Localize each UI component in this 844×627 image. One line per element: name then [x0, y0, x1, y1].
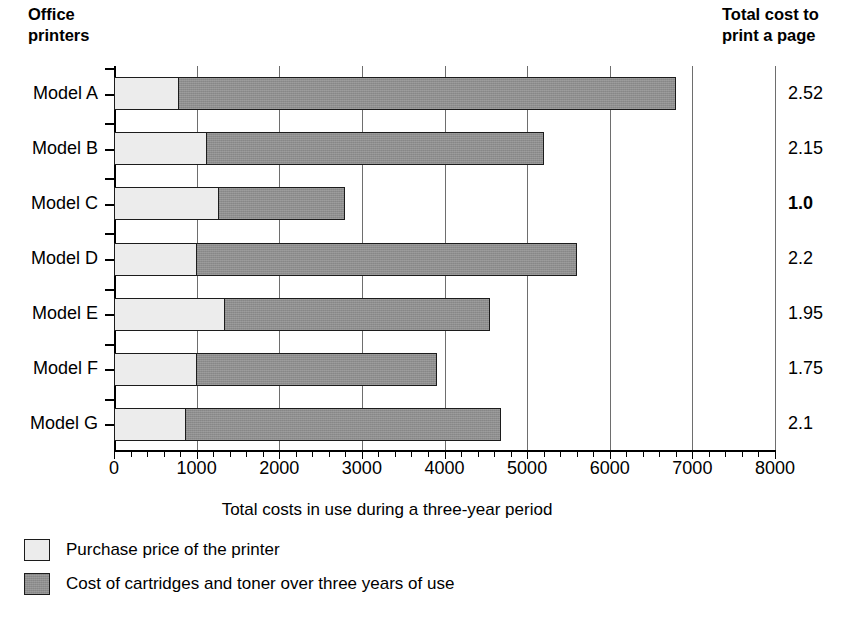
total-cost-column-title: Total cost to print a page: [722, 4, 844, 46]
bar-model-f[interactable]: [114, 353, 437, 386]
x-tick-minor: [577, 450, 578, 457]
y-tick-edge: [105, 233, 115, 235]
x-tick-minor: [345, 450, 346, 457]
office-printers-line2: printers: [28, 26, 89, 44]
x-tick-label-4000: 4000: [424, 458, 464, 478]
x-tick-minor: [312, 450, 313, 457]
bar-model-c[interactable]: [114, 187, 345, 220]
x-tick-minor: [725, 450, 726, 457]
total-cost-line1: Total cost to: [722, 4, 844, 25]
gridline-8000: [775, 66, 776, 450]
gridline-7000: [692, 66, 693, 450]
bar-segment-cartridge-cost: [206, 133, 543, 164]
total-cost-line2: print a page: [722, 25, 844, 46]
total-cost-value-model-f: 1.75: [788, 358, 823, 379]
x-tick-label-3000: 3000: [342, 458, 382, 478]
gridline-6000: [610, 66, 611, 450]
bar-segment-cartridge-cost: [196, 354, 436, 385]
y-tick-edge: [105, 344, 115, 346]
x-axis-title: Total costs in use during a three-year p…: [0, 500, 844, 520]
legend-swatch-light: [24, 539, 50, 561]
bar-segment-purchase-price: [115, 133, 206, 164]
y-tick-edge: [105, 68, 115, 70]
total-cost-value-model-g: 2.1: [788, 413, 813, 434]
office-printers-line1: Office: [28, 5, 75, 23]
chart-legend: Purchase price of the printerCost of car…: [24, 535, 454, 603]
category-label-model-g: Model G: [30, 413, 98, 434]
x-tick-minor: [296, 450, 297, 457]
x-tick-minor: [263, 450, 264, 457]
y-tick-edge: [105, 123, 115, 125]
bar-segment-purchase-price: [115, 244, 196, 275]
x-tick-label-0: 0: [109, 458, 119, 478]
x-tick-label-1000: 1000: [177, 458, 217, 478]
legend-item-1[interactable]: Purchase price of the printer: [24, 535, 454, 565]
x-tick-minor: [758, 450, 759, 457]
x-tick-minor: [180, 450, 181, 457]
x-tick-minor: [659, 450, 660, 457]
total-cost-value-model-c: 1.0: [788, 193, 813, 214]
y-tick-edge: [105, 178, 115, 180]
bar-model-a[interactable]: [114, 77, 676, 110]
bar-segment-cartridge-cost: [224, 299, 489, 330]
x-tick-minor: [411, 450, 412, 457]
category-label-model-d: Model D: [31, 248, 98, 269]
x-tick-minor: [461, 450, 462, 457]
x-tick-minor: [560, 450, 561, 457]
bar-segment-purchase-price: [115, 409, 185, 440]
category-label-model-b: Model B: [32, 138, 98, 159]
x-tick-minor: [478, 450, 479, 457]
x-tick-label-7000: 7000: [672, 458, 712, 478]
x-tick-minor: [246, 450, 247, 457]
total-cost-value-model-e: 1.95: [788, 303, 823, 324]
legend-item-2[interactable]: Cost of cartridges and toner over three …: [24, 569, 454, 599]
bar-segment-purchase-price: [115, 78, 178, 109]
bar-model-b[interactable]: [114, 132, 544, 165]
bar-segment-purchase-price: [115, 299, 224, 330]
category-label-model-f: Model F: [33, 358, 98, 379]
bar-segment-purchase-price: [115, 354, 196, 385]
total-cost-value-model-b: 2.15: [788, 138, 823, 159]
bar-segment-cartridge-cost: [178, 78, 675, 109]
x-tick-minor: [511, 450, 512, 457]
x-tick-minor: [544, 450, 545, 457]
x-tick-minor: [742, 450, 743, 457]
category-label-model-a: Model A: [33, 83, 98, 104]
x-tick-minor: [709, 450, 710, 457]
y-tick-edge: [105, 289, 115, 291]
x-tick-minor: [643, 450, 644, 457]
x-tick-label-2000: 2000: [259, 458, 299, 478]
chart-y-axis-title: Office printers: [28, 4, 198, 46]
bar-model-d[interactable]: [114, 243, 577, 276]
bar-segment-purchase-price: [115, 188, 218, 219]
x-tick-minor: [395, 450, 396, 457]
x-tick-label-8000: 8000: [755, 458, 795, 478]
total-cost-value-model-a: 2.52: [788, 83, 823, 104]
plot-area: 010002000300040005000600070008000: [114, 66, 775, 452]
x-tick-minor: [626, 450, 627, 457]
legend-swatch-dark: [24, 573, 50, 595]
x-tick-minor: [494, 450, 495, 457]
x-tick-minor: [164, 450, 165, 457]
category-label-model-c: Model C: [31, 193, 98, 214]
bar-model-e[interactable]: [114, 298, 490, 331]
category-label-model-e: Model E: [32, 303, 98, 324]
x-tick-minor: [428, 450, 429, 457]
x-tick-label-6000: 6000: [590, 458, 630, 478]
x-tick-minor: [676, 450, 677, 457]
total-cost-value-model-d: 2.2: [788, 248, 813, 269]
x-tick-minor: [147, 450, 148, 457]
x-axis-title-text: Total costs in use during a three-year p…: [222, 500, 553, 520]
bar-model-g[interactable]: [114, 408, 501, 441]
legend-label-1: Purchase price of the printer: [66, 540, 280, 560]
x-tick-label-5000: 5000: [507, 458, 547, 478]
bar-segment-cartridge-cost: [185, 409, 499, 440]
y-tick-edge: [105, 399, 115, 401]
bar-segment-cartridge-cost: [196, 244, 576, 275]
x-tick-minor: [131, 450, 132, 457]
x-tick-minor: [329, 450, 330, 457]
total-cost-values-column: 2.522.151.02.21.951.752.1: [788, 66, 844, 452]
x-tick-minor: [213, 450, 214, 457]
bar-segment-cartridge-cost: [218, 188, 344, 219]
x-tick-minor: [593, 450, 594, 457]
